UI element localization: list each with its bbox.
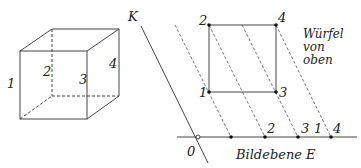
cube-label-1: 1 — [7, 76, 15, 91]
baseline-label-1: 1 — [314, 121, 322, 136]
square-corner-dots — [207, 23, 278, 94]
baseline-label-3: 3 — [301, 121, 309, 136]
corner-label-3: 3 — [279, 85, 287, 100]
cube-label-4: 4 — [108, 56, 117, 71]
plane-label: Bildebene E — [235, 147, 316, 162]
corner-label-1: 1 — [199, 85, 207, 100]
origin-marker — [196, 135, 200, 139]
cube-label-3: 3 — [79, 72, 87, 87]
top-view-caption-2: von — [303, 40, 325, 54]
k-axis-line — [141, 26, 208, 163]
corner-label-2: 2 — [198, 13, 207, 28]
baseline-label-2: 2 — [266, 121, 275, 136]
top-view-caption-3: oben — [303, 53, 333, 67]
top-view-square — [209, 25, 276, 92]
top-view-caption-1: Würfel — [303, 27, 344, 41]
baseline-label-4: 4 — [332, 121, 341, 136]
origin-label: 0 — [187, 144, 195, 159]
corner-label-4: 4 — [277, 10, 286, 25]
diagram-canvas: 1 2 3 4 K 0 Bildebene E 2 4 1 3 2 3 1 4 … — [0, 0, 361, 168]
cube-label-2: 2 — [42, 64, 51, 79]
cube-drawing — [20, 29, 119, 119]
k-axis-label: K — [127, 9, 139, 24]
